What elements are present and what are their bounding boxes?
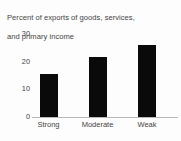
bar <box>89 57 107 116</box>
x-axis-tick-label: Strong <box>37 120 59 129</box>
y-axis-tick-label: 30 <box>6 30 30 38</box>
plot-area: 0102030 StrongModerateWeak <box>0 0 181 141</box>
x-axis-tick-label: Moderate <box>82 120 114 129</box>
x-axis-tick-label: Weak <box>137 120 156 129</box>
x-axis-line <box>32 117 178 118</box>
bar <box>138 45 156 117</box>
y-axis-tick-label: 0 <box>6 113 30 121</box>
bar <box>40 74 58 117</box>
bar-chart: Percent of exports of goods, services, a… <box>0 0 181 141</box>
y-axis-tick-label: 10 <box>6 85 30 93</box>
y-axis-tick-label: 20 <box>6 58 30 66</box>
